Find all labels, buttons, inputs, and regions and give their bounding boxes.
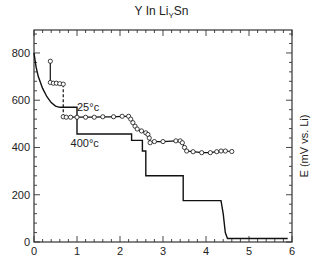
data-marker — [135, 127, 139, 131]
x-tick-label: 1 — [74, 245, 80, 257]
data-marker — [92, 115, 96, 119]
series-annotation: 25°c — [77, 101, 100, 113]
data-marker — [191, 150, 195, 154]
data-marker — [68, 115, 72, 119]
x-tick-label: 0 — [31, 245, 37, 257]
data-marker — [180, 141, 184, 145]
data-marker — [61, 82, 65, 86]
series-annotation: 400°c — [71, 137, 100, 149]
plot-area: 0123456020040060080025°c400°c — [0, 0, 323, 272]
data-marker — [152, 139, 156, 143]
y-tick-label: 600 — [12, 94, 30, 106]
data-marker — [75, 115, 79, 119]
data-marker — [147, 136, 151, 140]
x-tick-label: 3 — [160, 245, 166, 257]
data-marker — [161, 139, 165, 143]
data-marker — [48, 59, 52, 63]
data-marker — [84, 115, 88, 119]
data-marker — [230, 149, 234, 153]
data-marker — [223, 149, 227, 153]
data-marker — [139, 129, 143, 133]
data-marker — [101, 115, 105, 119]
data-marker — [200, 151, 204, 155]
data-marker — [174, 139, 178, 143]
plot-frame — [34, 30, 292, 242]
y-tick-label: 800 — [12, 47, 30, 59]
y-tick-label: 200 — [12, 189, 30, 201]
data-marker — [219, 149, 223, 153]
data-marker — [120, 114, 124, 118]
data-marker — [208, 151, 212, 155]
x-tick-label: 6 — [289, 245, 295, 257]
data-marker — [215, 150, 219, 154]
data-marker — [111, 115, 115, 119]
data-marker — [148, 141, 152, 145]
x-tick-label: 2 — [117, 245, 123, 257]
data-marker — [64, 115, 68, 119]
y-tick-label: 400 — [12, 141, 30, 153]
data-marker — [185, 149, 189, 153]
x-tick-label: 4 — [203, 245, 209, 257]
x-tick-label: 5 — [246, 245, 252, 257]
y-tick-label: 0 — [24, 236, 30, 248]
